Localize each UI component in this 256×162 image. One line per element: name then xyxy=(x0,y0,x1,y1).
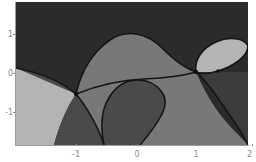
y-tick-label-neg1: -1 xyxy=(0,108,13,117)
x-tick-label-0: 0 xyxy=(129,150,145,159)
plot-area xyxy=(16,2,248,145)
y-tick-label-2: 2 xyxy=(1,0,13,1)
y-tick-label-0: 0 xyxy=(1,69,13,78)
intersection-point-3 xyxy=(216,69,220,73)
x-tick-label-2: 2 xyxy=(247,150,256,159)
region-plot-svg xyxy=(16,2,248,145)
x-axis-spine xyxy=(15,145,249,146)
y-axis-spine xyxy=(15,2,16,146)
intersection-point-2 xyxy=(194,70,198,74)
y-tick-mark-1 xyxy=(13,34,15,35)
y-tick-mark-0 xyxy=(13,73,15,74)
x-tick-label-neg1: -1 xyxy=(68,150,84,159)
x-tick-mark-1 xyxy=(196,144,197,146)
intersection-point-1 xyxy=(74,92,78,96)
x-tick-mark-2 xyxy=(252,144,253,146)
y-tick-label-1: 1 xyxy=(1,30,13,39)
y-tick-mark-neg1 xyxy=(13,112,15,113)
x-tick-mark-0 xyxy=(137,144,138,146)
figure-canvas: 2 1 0 -1 -1 0 1 2 xyxy=(0,0,256,162)
x-tick-label-1: 1 xyxy=(188,150,204,159)
x-tick-mark-neg1 xyxy=(76,144,77,146)
